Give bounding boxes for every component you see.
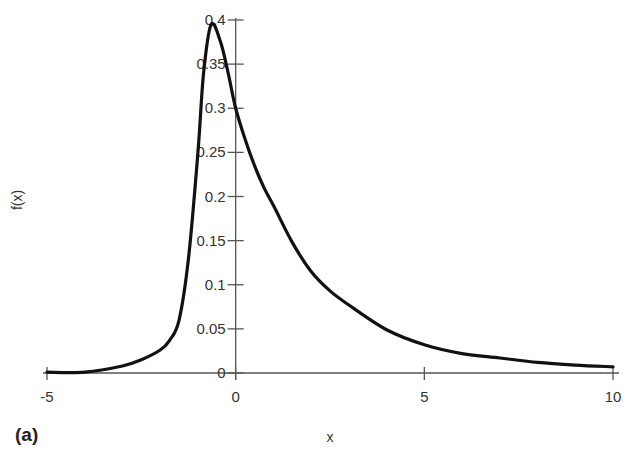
y-tick-label: 0.2: [205, 188, 226, 205]
x-tick-label: 5: [420, 388, 428, 405]
y-tick-label: 0.35: [196, 55, 225, 72]
x-tick-label: 0: [231, 388, 239, 405]
y-tick-label: 0.3: [205, 99, 226, 116]
y-tick-label: 0.05: [196, 320, 225, 337]
y-tick-label: 0.25: [196, 143, 225, 160]
y-tick-label: 0.1: [205, 276, 226, 293]
x-tick-label: -5: [40, 388, 53, 405]
chart: -50510 00.050.10.150.20.250.30.350.4 x f…: [0, 0, 634, 460]
series-line: [47, 23, 613, 372]
x-axis: -50510: [40, 367, 621, 405]
y-axis-title: f(x): [9, 190, 25, 210]
x-axis-title: x: [327, 429, 334, 445]
panel-label: (a): [15, 424, 38, 445]
y-tick-label: 0.15: [196, 232, 225, 249]
y-tick-label: 0: [217, 364, 225, 381]
data-series: [47, 23, 613, 372]
x-tick-label: 10: [605, 388, 622, 405]
